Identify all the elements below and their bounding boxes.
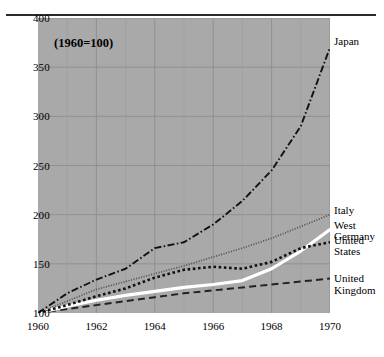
x-tick-1962: 1962 <box>85 320 107 332</box>
y-tick-400: 400 <box>16 12 50 24</box>
y-tick-100: 100 <box>16 307 50 319</box>
series-label-line: Japan <box>334 36 359 48</box>
series-label-italy: Italy <box>334 205 354 217</box>
y-tick-200: 200 <box>16 209 50 221</box>
x-tick-1968: 1968 <box>261 320 283 332</box>
x-tick-1960: 1960 <box>27 320 49 332</box>
plot-area <box>38 18 330 313</box>
y-tick-350: 350 <box>16 61 50 73</box>
plot-svg <box>38 18 330 313</box>
x-tick-1970: 1970 <box>319 320 341 332</box>
series-label-united-states: UnitedStates <box>334 235 364 258</box>
series-label-united-kingdom: UnitedKingdom <box>334 273 376 296</box>
series-label-line: United <box>334 273 376 285</box>
series-label-japan: Japan <box>334 36 359 48</box>
series-label-line: Kingdom <box>334 285 376 297</box>
chart-figure: 100150200250300350400 196019621964196619… <box>0 0 384 357</box>
y-tick-300: 300 <box>16 110 50 122</box>
y-tick-150: 150 <box>16 258 50 270</box>
base-year-annotation: (1960=100) <box>54 36 113 51</box>
y-tick-250: 250 <box>16 160 50 172</box>
series-label-line: States <box>334 246 364 258</box>
x-tick-1966: 1966 <box>202 320 224 332</box>
series-label-line: Italy <box>334 205 354 217</box>
x-tick-1964: 1964 <box>144 320 166 332</box>
top-divider-rule <box>6 14 376 16</box>
